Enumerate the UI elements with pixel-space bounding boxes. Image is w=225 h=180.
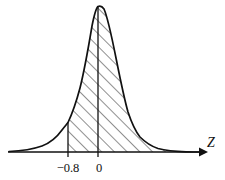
plot-canvas: −0.8 0 Z (0, 0, 225, 180)
shaded-area (0, 0, 225, 180)
z-axis-label: Z (207, 135, 215, 150)
tick-label-minus-0-8: −0.8 (57, 161, 80, 175)
distribution-figure: −0.8 0 Z (0, 0, 225, 180)
tick-label-zero: 0 (96, 161, 102, 175)
